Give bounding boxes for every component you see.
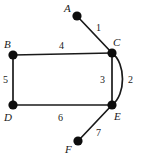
vertex-dot-d xyxy=(8,100,17,109)
vertex-dot-c xyxy=(107,48,116,57)
vertex-label-a: A xyxy=(63,2,71,14)
vertex-label-f: F xyxy=(64,143,72,155)
edge-label-4: 4 xyxy=(59,40,64,51)
edges-group xyxy=(13,16,123,141)
vertex-dot-b xyxy=(8,50,17,59)
vertex-label-b: B xyxy=(4,38,11,50)
vertex-label-c: C xyxy=(113,36,121,48)
vertex-label-d: D xyxy=(3,111,12,123)
vertex-dot-a xyxy=(72,11,81,20)
edge-7-e-f xyxy=(78,105,112,141)
vertex-dot-e xyxy=(107,100,116,109)
vertex-label-e: E xyxy=(113,110,121,122)
edge-4-b-c xyxy=(13,53,112,55)
vertex-dot-f xyxy=(73,136,82,145)
edge-label-2: 2 xyxy=(128,74,133,85)
edge-label-1: 1 xyxy=(96,22,101,33)
graph-canvas: A B C D E F 1 2 3 4 5 6 7 xyxy=(0,0,142,156)
edge-2-c-e-arc xyxy=(112,53,123,105)
edge-1-a-c xyxy=(77,16,112,53)
edge-label-5: 5 xyxy=(3,74,8,85)
graph-diagram: A B C D E F 1 2 3 4 5 6 7 xyxy=(0,0,142,156)
edge-label-6: 6 xyxy=(58,112,63,123)
edge-label-7: 7 xyxy=(96,127,101,138)
edge-label-3: 3 xyxy=(100,74,105,85)
